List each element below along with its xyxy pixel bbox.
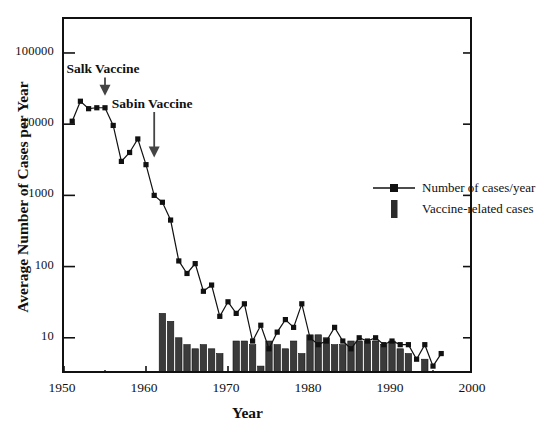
y-tick-1000: 1000 <box>28 186 54 201</box>
y-axis-tick-labels: 10100100010000100000 <box>0 0 54 427</box>
legend: Number of cases/year Vaccine-related cas… <box>372 177 537 219</box>
line-marker-key <box>372 181 416 195</box>
legend-item-bar: Vaccine-related cases <box>372 198 537 219</box>
legend-label-line: Number of cases/year <box>416 180 535 196</box>
x-axis-title: Year <box>0 404 495 422</box>
y-tick-10: 10 <box>41 328 54 343</box>
bar-swatch-key <box>372 199 416 219</box>
y-tick-100: 100 <box>35 257 54 272</box>
x-axis-tick-labels: 195019601970198019902000 <box>0 380 495 402</box>
x-tick-1970: 1970 <box>213 380 240 396</box>
x-tick-1990: 1990 <box>377 380 404 396</box>
y-tick-10000: 10000 <box>22 115 54 130</box>
x-tick-1950: 1950 <box>49 380 76 396</box>
y-tick-100000: 100000 <box>15 43 54 58</box>
x-tick-1960: 1960 <box>131 380 158 396</box>
annotation-label-salk: Salk Vaccine <box>66 61 139 77</box>
annotation-label-sabin: Sabin Vaccine <box>112 96 193 112</box>
x-tick-2000: 2000 <box>459 380 486 396</box>
legend-label-bar: Vaccine-related cases <box>416 201 534 217</box>
legend-item-line: Number of cases/year <box>372 177 537 198</box>
x-tick-1980: 1980 <box>295 380 322 396</box>
